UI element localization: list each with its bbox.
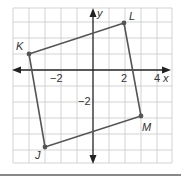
vertex-j: [43, 145, 48, 150]
label-j: J: [34, 149, 41, 161]
x-axis: [12, 67, 171, 74]
x-axis-label: x: [162, 72, 169, 84]
label-l: L: [129, 10, 135, 22]
y-axis-up-arrow-icon: [90, 8, 97, 17]
x-tick-4: 4: [154, 72, 160, 84]
quadrilateral-jklm: [29, 23, 141, 147]
coordinate-plane: −2 2 4 x −2 y K L M J: [0, 0, 181, 178]
x-tick-2: 2: [121, 72, 127, 84]
x-tick-neg2: −2: [50, 72, 63, 84]
vertex-l: [122, 21, 127, 26]
label-m: M: [142, 121, 152, 133]
vertex-m: [139, 114, 144, 119]
vertex-k: [27, 52, 32, 57]
bottom-rule: [0, 174, 181, 176]
y-tick-neg2: −2: [78, 95, 91, 107]
label-k: K: [16, 40, 24, 52]
y-axis-label: y: [96, 7, 104, 19]
